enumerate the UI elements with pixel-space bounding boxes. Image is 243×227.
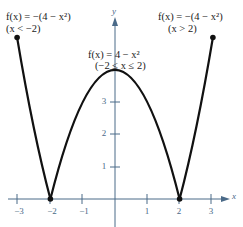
x-tick-label: 3 (209, 206, 214, 216)
endpoint-left (14, 35, 20, 41)
label-middle-condition: (−2 ≤ x ≤ 2) (95, 60, 146, 71)
x-tick-label: 2 (177, 206, 182, 216)
label-right-condition: (x > 2) (168, 23, 197, 34)
y-axis-label: y (112, 6, 116, 16)
x-axis-label: x (232, 191, 236, 201)
curve-right (180, 38, 213, 200)
x-axis-arrow-icon (221, 196, 230, 202)
point-x-2 (177, 196, 183, 202)
x-tick-label: −3 (14, 206, 24, 216)
y-axis-arrow-icon (112, 17, 118, 26)
label-left-equation: f(x) = −(4 − x²) (6, 11, 71, 22)
function-plot (0, 0, 243, 227)
y-tick-label: 3 (102, 96, 107, 106)
x-tick-label: 1 (145, 206, 150, 216)
point-x-neg2 (48, 196, 54, 202)
endpoint-right (210, 35, 216, 41)
y-tick-label: 1 (102, 161, 107, 171)
label-right-equation: f(x) = −(4 − x²) (158, 11, 223, 22)
label-middle-equation: f(x) = 4 − x² (88, 49, 140, 60)
y-tick-label: 2 (102, 128, 107, 138)
x-tick-label: −2 (47, 206, 57, 216)
x-tick-label: −1 (79, 206, 89, 216)
curve-left (17, 38, 50, 200)
label-left-condition: (x < −2) (6, 23, 41, 34)
